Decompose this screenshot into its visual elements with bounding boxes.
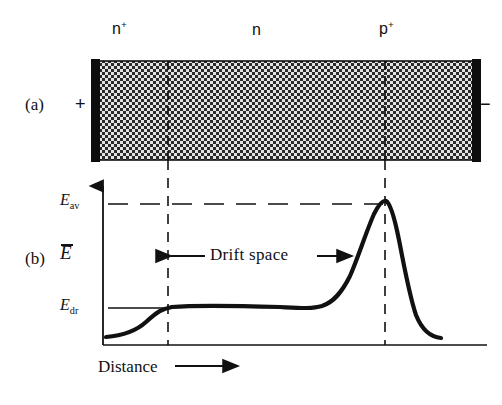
x-axis-label: Distance [98,358,157,375]
label-p-plus-region: p+ [379,20,394,37]
label-n-plus-region: n+ [112,20,127,37]
device-body [95,61,477,160]
field-plot-axes [103,186,487,345]
terminal-positive: + [75,95,86,113]
figure-container: n+ n p+ (a) (b) + − E Eav Edr Drift spac… [0,0,502,405]
field-profile-curve [106,201,441,338]
e-av-label: Eav [60,192,79,211]
device-cross-section [91,59,481,162]
terminal-negative: − [480,95,491,113]
y-axis-label: E [60,243,72,262]
curve-path [106,201,441,338]
label-n-region: n [252,22,261,38]
overbar [61,244,73,246]
drift-space-label: Drift space [210,246,288,263]
anode-contact [91,59,100,162]
panel-label-b: (b) [25,250,45,267]
e-dr-label: Edr [60,297,78,316]
panel-label-a: (a) [25,96,44,113]
